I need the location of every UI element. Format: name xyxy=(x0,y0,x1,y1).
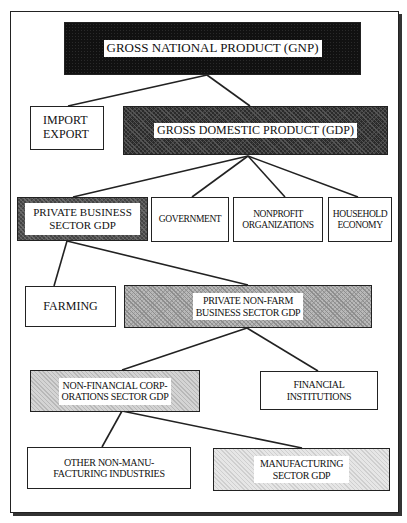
node-gnp-label: GROSS NATIONAL PRODUCT (GNP) xyxy=(104,40,322,57)
node-other-nonmanufacturing: OTHER NON-MANU- FACTURING INDUSTRIES xyxy=(27,447,191,489)
node-nonprofit-label: NONPROFIT ORGANIZATIONS xyxy=(239,208,316,232)
node-household-label: HOUSEHOLD ECONOMY xyxy=(330,208,390,232)
node-gdp-label: GROSS DOMESTIC PRODUCT (GDP) xyxy=(154,123,357,139)
node-financial-label: FINANCIAL INSTITUTIONS xyxy=(284,378,355,403)
node-government: GOVERNMENT xyxy=(151,197,229,242)
node-manufacturing-label: MANUFACTURING SECTOR GDP xyxy=(254,456,349,483)
node-other-nonmanufacturing-label: OTHER NON-MANU- FACTURING INDUSTRIES xyxy=(50,456,167,481)
node-manufacturing: MANUFACTURING SECTOR GDP xyxy=(213,448,390,491)
node-household: HOUSEHOLD ECONOMY xyxy=(328,197,392,242)
node-farming-label: FARMING xyxy=(40,299,100,315)
node-government-label: GOVERNMENT xyxy=(156,213,225,226)
diagram-frame xyxy=(10,11,399,513)
node-nonfinancial-label: NON-FINANCIAL CORP- ORATIONS SECTOR GDP xyxy=(59,378,172,405)
node-import-export-label: IMPORT EXPORT xyxy=(40,113,92,143)
node-financial: FINANCIAL INSTITUTIONS xyxy=(260,371,378,410)
node-private-business-label: PRIVATE BUSINESS SECTOR GDP xyxy=(25,203,140,235)
node-nonfinancial: NON-FINANCIAL CORP- ORATIONS SECTOR GDP xyxy=(30,370,200,412)
node-import-export: IMPORT EXPORT xyxy=(30,106,104,150)
node-gdp: GROSS DOMESTIC PRODUCT (GDP) xyxy=(123,106,388,155)
node-gnp: GROSS NATIONAL PRODUCT (GNP) xyxy=(64,22,361,75)
node-private-nonfarm: PRIVATE NON-FARM BUSINESS SECTOR GDP xyxy=(124,285,372,328)
node-farming: FARMING xyxy=(25,286,116,327)
node-nonprofit: NONPROFIT ORGANIZATIONS xyxy=(233,197,323,242)
node-private-business: PRIVATE BUSINESS SECTOR GDP xyxy=(17,197,148,241)
node-private-nonfarm-label: PRIVATE NON-FARM BUSINESS SECTOR GDP xyxy=(193,293,304,320)
